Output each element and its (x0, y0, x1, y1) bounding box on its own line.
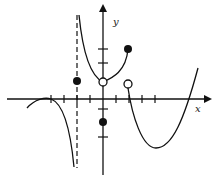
function-graph: y x (0, 0, 214, 178)
filled-point-at-0 (99, 118, 107, 126)
filled-point-at-neg2 (73, 77, 81, 85)
y-axis-label: y (112, 16, 119, 27)
x-axis-label: x (195, 103, 201, 114)
filled-point-at-2 (124, 45, 132, 53)
open-point-at-0 (99, 78, 107, 86)
right-branch (128, 68, 198, 148)
open-point-at-2 (124, 80, 132, 88)
left-branch (27, 98, 74, 167)
